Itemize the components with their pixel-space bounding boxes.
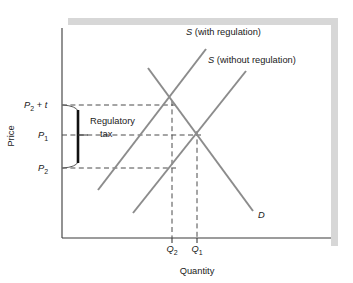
quantity-tick-label-q1: Q1 [191,244,202,256]
quantity-tick-labels: Q2Q1 [166,244,202,256]
price-tick-label-p1: P1 [38,130,48,142]
regulatory-tax-label-line1: Regulatory [90,116,135,126]
price-tick-sub-p1: 1 [44,135,48,142]
quantity-tick-sub-q2: 2 [174,249,178,256]
brace-curl-bottom-icon [63,162,78,168]
curve-label-supply-without-regulation: S (without regulation) [208,55,296,65]
price-tick-suffix-italic-p2-plus-t: t [45,100,48,110]
quantity-tick-base-q1: Q [191,244,198,254]
price-tick-labels: P2 + tP1P2 [24,100,48,175]
quantity-tick-sub-q1: 1 [199,249,203,256]
curve-label-text-supply-with-regulation: (with regulation) [192,27,261,37]
price-tick-sub-p2: 2 [44,168,48,175]
price-tick-label-p2-plus-t: P2 + t [24,100,48,112]
regulatory-tax-label-line2: tax [100,129,113,139]
curve-label-supply-with-regulation: S (with regulation) [186,27,261,37]
top-shadow-band [68,18,337,25]
brace-curl-top-icon [63,105,78,111]
curve-label-demand: D [258,210,265,220]
curve-demand [148,68,253,211]
curve-label-symbol-demand: D [258,210,265,220]
regulatory-tax-brace [63,105,88,168]
y-axis-title: Price [6,125,16,146]
quantity-tick-label-q2: Q2 [166,244,177,256]
quantity-tick-marks [172,238,197,243]
right-shadow-band [331,18,338,246]
curve-supply-without-regulation [133,71,246,213]
curve-labels: S (with regulation)S (without regulation… [186,27,296,220]
quantity-tick-base-q2: Q [166,244,173,254]
figure-root: P2 + tP1P2 Q2Q1 S (with regulation)S (wi… [0,0,353,283]
price-tick-label-p2: P2 [38,163,48,175]
curve-label-text-supply-without-regulation: (without regulation) [214,55,296,65]
curve-lines [98,49,253,213]
supply-demand-chart: P2 + tP1P2 Q2Q1 S (with regulation)S (wi… [0,0,353,283]
price-tick-suffix-p2-plus-t: + [34,100,45,110]
x-axis-title: Quantity [180,266,215,276]
